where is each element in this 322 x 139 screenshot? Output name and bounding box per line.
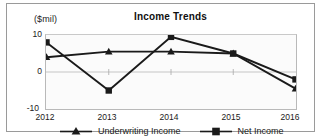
data-point-underwriting-income-2016 (292, 85, 296, 92)
y-axis-tick-label-mid: 0 (12, 66, 42, 76)
plot-svg (46, 35, 296, 109)
x-axis-tick-label-2013: 2013 (90, 112, 124, 122)
data-point-net-income-2015 (230, 50, 236, 56)
x-axis-tick-label-2015: 2015 (214, 112, 248, 122)
x-axis-tick-label-2016: 2016 (273, 112, 307, 122)
chart-figure-frame: ($mil) Income Trends 10 0 -10 2012 2013 … (6, 3, 315, 132)
legend-label-underwriting-income: Underwriting Income (98, 126, 181, 136)
data-point-net-income-2013 (106, 87, 112, 93)
legend-item-underwriting-income: Underwriting Income (59, 126, 181, 137)
series-lines (47, 37, 296, 91)
data-point-net-income-2012 (46, 39, 50, 45)
x-axis-tick-label-2012: 2012 (28, 112, 62, 122)
data-point-net-income-2014 (168, 35, 174, 40)
legend-label-net-income: Net Income (238, 126, 284, 136)
square-marker-icon (199, 126, 233, 137)
x-axis-tick-label-2014: 2014 (152, 112, 186, 122)
chart-title: Income Trends (7, 11, 314, 22)
chart-legend: Underwriting Income Net Income (59, 124, 279, 138)
data-point-net-income-2016 (292, 76, 296, 82)
y-axis-tick-label-top: 10 (12, 29, 42, 39)
series-line-1 (47, 37, 296, 91)
triangle-marker-icon (59, 126, 93, 137)
plot-area (45, 34, 297, 110)
legend-item-net-income: Net Income (199, 126, 284, 137)
income-trends-chart-card: ($mil) Income Trends 10 0 -10 2012 2013 … (0, 0, 322, 139)
